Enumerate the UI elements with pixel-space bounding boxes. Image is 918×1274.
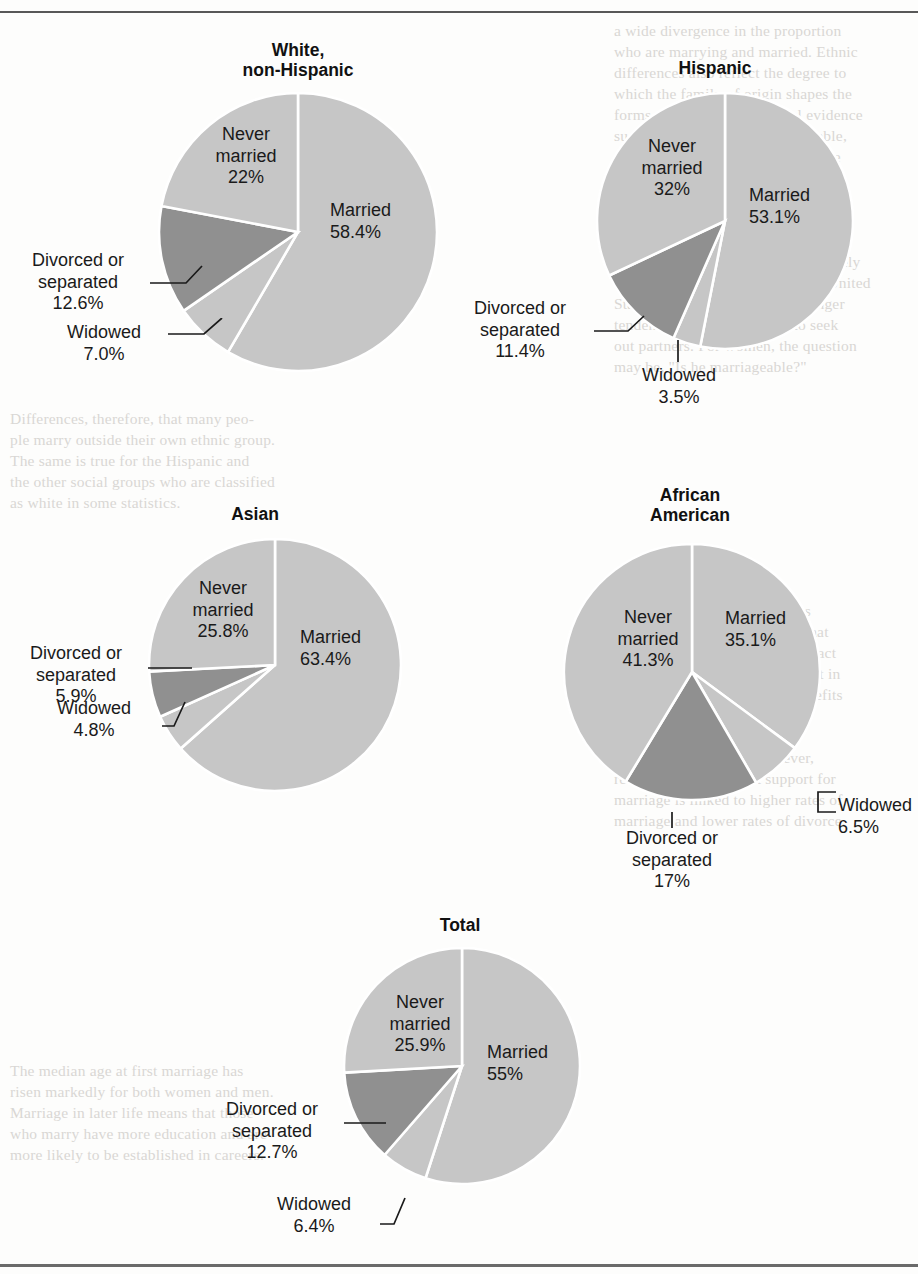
label-value: 17% <box>654 871 690 891</box>
top-rule <box>0 11 918 13</box>
slice-label-aa-never-married: Never married 41.3% <box>588 607 708 672</box>
label-text: Married <box>725 608 786 628</box>
label-text: Divorced or separated <box>474 298 566 340</box>
slice-label-white-widowed: Widowed 7.0% <box>38 322 170 365</box>
slice-label-total-never-married: Never married 25.9% <box>360 992 480 1057</box>
slice-label-hispanic-widowed: Widowed 3.5% <box>613 365 745 408</box>
label-text: Never married <box>641 136 702 178</box>
label-text: Divorced or separated <box>226 1099 318 1141</box>
label-text: Widowed <box>642 365 716 385</box>
leader-line-asian-widowed <box>160 700 190 730</box>
chart-title-white-non-hispanic: White, non-Hispanic <box>198 40 398 80</box>
slice-label-asian-widowed: Widowed 4.8% <box>28 698 160 741</box>
slice-label-hispanic-married: Married 53.1% <box>749 185 889 228</box>
label-text: Divorced or separated <box>32 250 124 292</box>
label-value: 25.9% <box>394 1035 445 1055</box>
label-value: 25.8% <box>197 621 248 641</box>
slice-label-aa-married: Married 35.1% <box>725 608 855 651</box>
slice-label-total-married: Married 55% <box>487 1042 617 1085</box>
leader-line-asian-divorced <box>148 662 198 672</box>
label-text: Married <box>330 200 391 220</box>
label-text: Never married <box>389 992 450 1034</box>
label-value: 12.7% <box>246 1142 297 1162</box>
bleed-text-left-mid: Differences, therefore, that many peo- p… <box>10 408 310 513</box>
label-value: 22% <box>228 167 264 187</box>
label-value: 53.1% <box>749 207 800 227</box>
slice-label-aa-widowed: Widowed 6.5% <box>838 795 918 838</box>
label-value: 6.4% <box>293 1216 334 1236</box>
slice-label-white-divorced: Divorced or separated 12.6% <box>4 250 152 315</box>
slice-label-white-married: Married 58.4% <box>330 200 470 243</box>
label-value: 11.4% <box>495 341 545 361</box>
label-text: Divorced or separated <box>626 828 718 870</box>
label-text: Never married <box>617 607 678 649</box>
label-text: Widowed <box>57 698 131 718</box>
label-text: Married <box>487 1042 548 1062</box>
label-value: 63.4% <box>300 649 351 669</box>
slice-label-aa-divorced: Divorced or separated 17% <box>592 828 752 893</box>
slice-label-hispanic-never-married: Never married 32% <box>613 136 731 201</box>
label-text: Married <box>749 185 810 205</box>
slice-label-white-never-married: Never married 22% <box>183 124 309 189</box>
slice-label-total-widowed: Widowed 6.4% <box>248 1194 380 1237</box>
label-value: 55% <box>487 1064 523 1084</box>
slice-label-asian-married: Married 63.4% <box>300 627 440 670</box>
label-value: 12.6% <box>52 293 103 313</box>
pie-chart-african-american <box>563 543 821 801</box>
slice-label-asian-never-married: Never married 25.8% <box>160 578 286 643</box>
label-value: 41.3% <box>622 650 673 670</box>
label-text: Widowed <box>67 322 141 342</box>
label-text: Married <box>300 627 361 647</box>
label-value: 35.1% <box>725 630 776 650</box>
bottom-rule <box>0 1264 918 1267</box>
slice-label-total-divorced: Divorced or separated 12.7% <box>196 1099 348 1164</box>
leader-line-white-divorced <box>150 262 210 290</box>
label-text: Divorced or separated <box>30 643 122 685</box>
label-text: Never married <box>215 124 276 166</box>
chart-title-asian: Asian <box>165 504 345 524</box>
label-value: 32% <box>654 179 690 199</box>
label-value: 3.5% <box>658 387 699 407</box>
slice-label-hispanic-divorced: Divorced or separated 11.4% <box>442 298 598 363</box>
leader-line-total-widowed <box>378 1196 410 1228</box>
label-text: Widowed <box>838 795 912 815</box>
chart-title-hispanic: Hispanic <box>625 58 805 78</box>
chart-title-african-american: African American <box>600 485 780 525</box>
leader-line-aa-widowed <box>812 790 840 820</box>
label-text: Widowed <box>277 1194 351 1214</box>
leader-line-hispanic-widowed <box>674 340 682 366</box>
leader-line-hispanic-divorced <box>594 310 654 336</box>
label-value: 6.5% <box>838 817 879 837</box>
leader-line-total-divorced <box>344 1118 392 1128</box>
figure-panel: a wide divergence in the proportion who … <box>0 0 918 1274</box>
leader-line-aa-divorced <box>668 812 676 832</box>
label-value: 4.8% <box>73 720 114 740</box>
chart-title-total: Total <box>370 915 550 935</box>
leader-line-white-widowed <box>168 318 230 344</box>
label-text: Never married <box>192 578 253 620</box>
label-value: 7.0% <box>83 344 124 364</box>
label-value: 58.4% <box>330 222 381 242</box>
